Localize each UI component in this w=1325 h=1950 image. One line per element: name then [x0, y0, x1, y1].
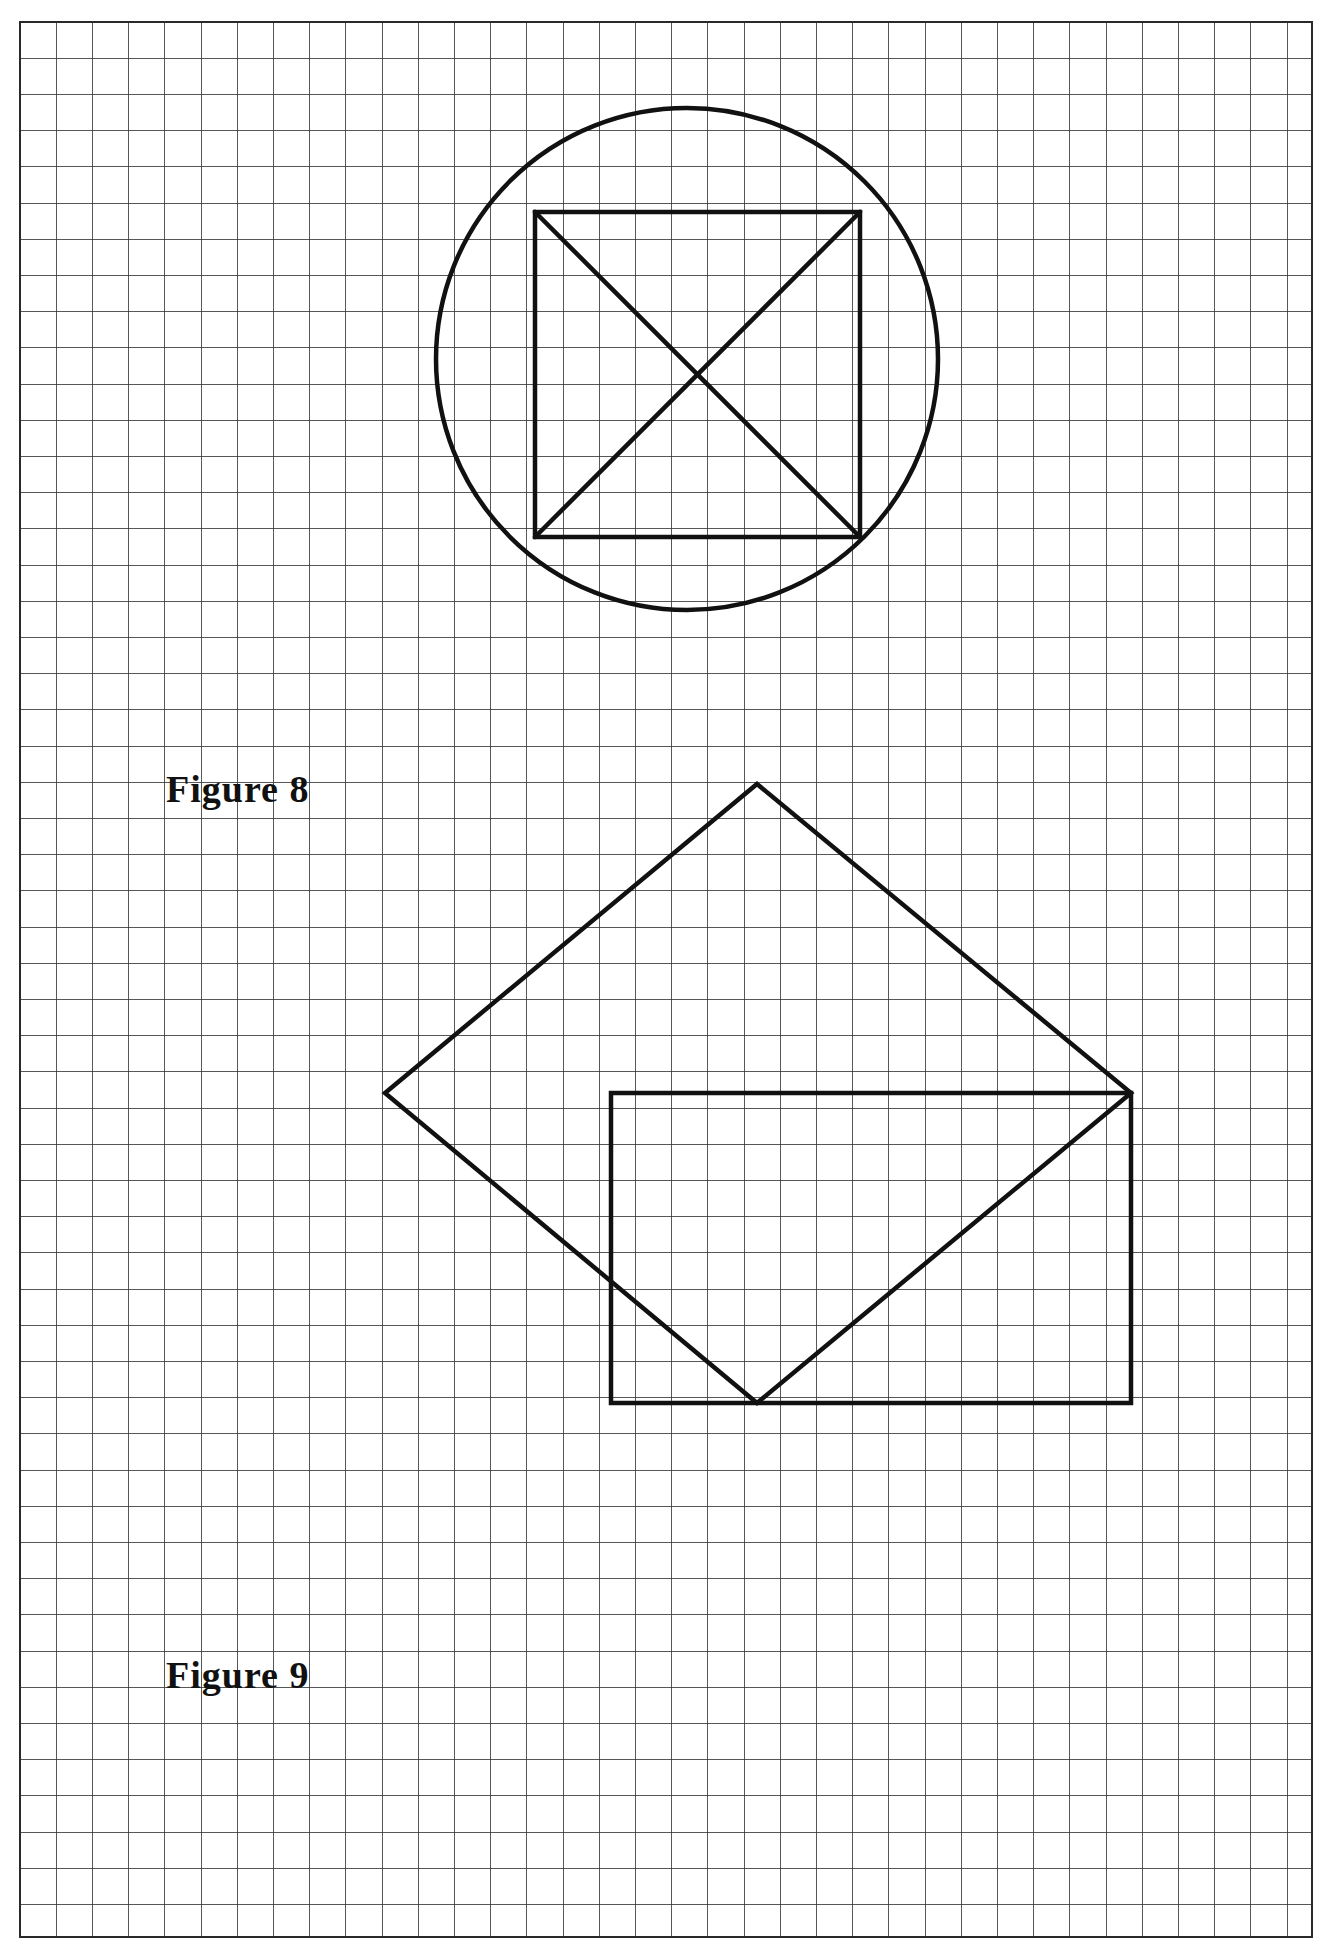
figure-8-circle	[436, 108, 938, 610]
worksheet-page: Figure 8 Figure 9	[0, 0, 1325, 1950]
figure-8	[436, 108, 938, 610]
figure-9	[385, 784, 1131, 1403]
figure-8-label: Figure 8	[166, 770, 309, 808]
figure-9-square	[611, 1093, 1131, 1403]
figure-9-label: Figure 9	[166, 1656, 309, 1694]
